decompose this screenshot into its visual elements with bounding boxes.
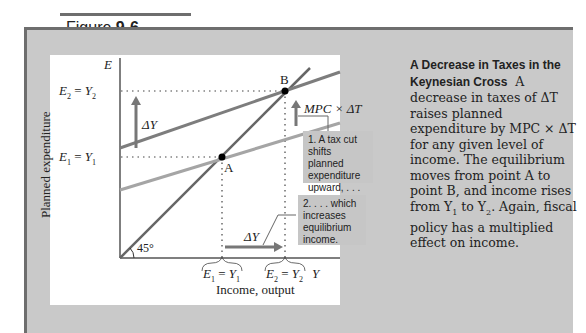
mpc-delta-t-label: MPC × ΔT [304, 101, 362, 117]
figure-caption: A Decrease in Taxes in the Keynesian Cro… [410, 57, 580, 251]
x-axis-symbol: Y [312, 266, 319, 282]
y-axis-label: Planned expenditure [38, 112, 54, 219]
x-tick-y1: E1 = Y1 [203, 266, 240, 284]
point-a-label: A [224, 160, 233, 176]
annotation-note-1: 1. A tax cut shifts planned expenditure … [303, 131, 373, 183]
angle-label: 45° [137, 241, 154, 256]
annotation-note-2: 2. . . . which increases equilibrium inc… [298, 195, 366, 245]
caption-title: A Decrease in Taxes in the Keynesian Cro… [410, 58, 561, 89]
caption-body: A decrease in taxes of ΔT raises planned… [410, 74, 577, 251]
y-tick-e1: E1 = Y1 [59, 149, 96, 167]
x-tick-y2: E2 = Y2 [266, 266, 303, 284]
delta-y-horizontal-label: ΔY [244, 229, 259, 245]
y-tick-e2: E2 = Y2 [59, 83, 96, 101]
x-axis-label: Income, output [216, 282, 295, 298]
delta-y-vertical-label: ΔY [142, 117, 157, 133]
y-axis-symbol: E [104, 57, 112, 73]
point-b-label: B [280, 72, 289, 88]
